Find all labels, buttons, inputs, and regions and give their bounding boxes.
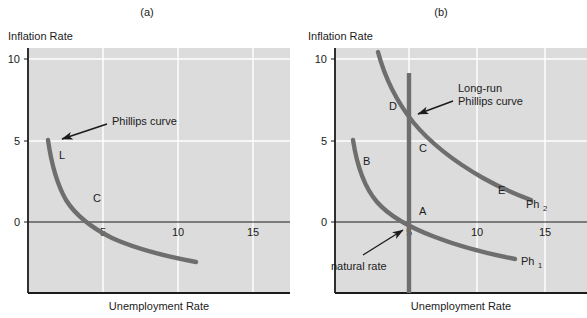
panel-b-curve-label-ph2-sub: 2: [543, 204, 547, 213]
panel-a-chart: (a) Inflation Rate: [0, 0, 293, 318]
panel-a-y-axis-label: Inflation Rate: [8, 30, 73, 42]
panel-b-ytick-0: 0: [321, 216, 327, 228]
panel-b-point-label-E: E: [498, 184, 505, 196]
panel-b-point-label-A: A: [419, 205, 427, 217]
panel-a-ytick-0: 0: [14, 216, 20, 228]
panel-b: (b) Inflation Rate: [293, 0, 586, 318]
panel-a-xtick-10: 10: [172, 226, 184, 238]
panel-b-point-label-D: D: [389, 100, 397, 112]
panel-b-long-run-annotation-line2: Phillips curve: [458, 95, 523, 107]
panel-b-ytick-10: 10: [315, 53, 327, 65]
panel-a-plot-area: [28, 48, 290, 293]
panel-b-long-run-annotation-line1: Long-run: [458, 82, 502, 94]
panel-b-curve-label-ph1-base: Ph: [521, 255, 534, 267]
panel-a-point-label-C: C: [93, 192, 101, 204]
panel-a-ytick-5: 5: [14, 135, 20, 147]
panel-b-curve-label-ph2-base: Ph: [526, 198, 539, 210]
panel-b-title: (b): [434, 6, 447, 18]
panel-a-ytick-10: 10: [8, 53, 20, 65]
panel-b-point-label-C: C: [419, 142, 427, 154]
panel-b-curve-label-ph1-sub: 1: [538, 261, 542, 270]
panel-a-x-axis-label: Unemployment Rate: [109, 300, 209, 312]
panel-b-xtick-15: 15: [539, 226, 551, 238]
panel-a: (a) Inflation Rate: [0, 0, 293, 318]
phillips-curve-figure: (a) Inflation Rate: [0, 0, 587, 318]
panel-b-chart: (b) Inflation Rate: [293, 0, 587, 318]
panel-b-y-axis-label: Inflation Rate: [308, 30, 373, 42]
panel-b-natural-rate-annotation: natural rate: [331, 260, 387, 272]
panel-b-ytick-5: 5: [321, 135, 327, 147]
panel-a-phillips-curve-annotation: Phillips curve: [112, 115, 177, 127]
panel-b-point-label-B: B: [363, 155, 370, 167]
panel-a-xtick-15: 15: [247, 226, 259, 238]
panel-a-point-label-L: L: [59, 149, 65, 161]
panel-b-xtick-10: 10: [471, 226, 483, 238]
panel-a-title: (a): [140, 6, 153, 18]
panel-b-x-axis-label: Unemployment Rate: [411, 300, 511, 312]
